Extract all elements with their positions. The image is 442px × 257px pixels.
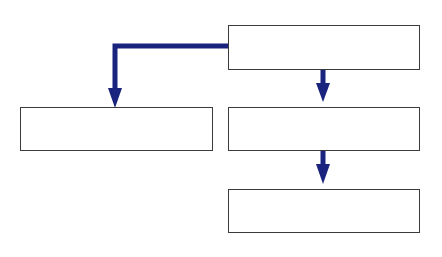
arrowhead-icon — [108, 88, 122, 108]
edge-top-to-middle — [316, 69, 330, 102]
node-bottom — [228, 189, 420, 233]
edge-top-to-left — [108, 46, 229, 108]
arrowhead-icon — [316, 164, 330, 184]
node-left — [20, 107, 213, 151]
arrowhead-icon — [316, 83, 330, 102]
edge-middle-to-bottom — [316, 151, 330, 184]
node-top — [228, 25, 420, 70]
node-middle — [228, 107, 420, 151]
